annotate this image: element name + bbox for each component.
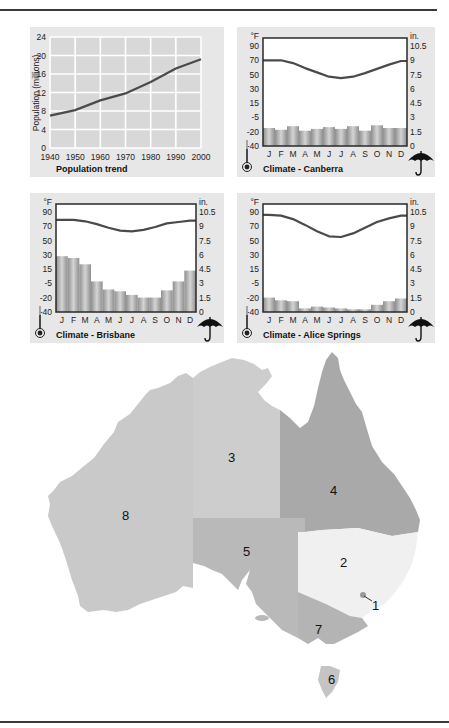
population-y-ticks: 04812162024 xyxy=(37,32,47,153)
rainfall-tick-label: 6 xyxy=(410,84,415,94)
month-label: F xyxy=(71,315,76,325)
temperature-tick-label: -40 xyxy=(247,141,260,151)
rainfall-bar xyxy=(383,128,395,146)
map-region-nt[interactable] xyxy=(193,358,280,518)
rainfall-unit-label: in. xyxy=(410,197,419,207)
rainfall-tick-label: 10.5 xyxy=(410,41,427,51)
climate-brisbane-chart: °Fin.9070503015-5-20-4010.597.564.531.50… xyxy=(30,193,224,343)
month-label: J xyxy=(60,315,64,325)
temperature-tick-label: 90 xyxy=(250,207,260,217)
month-label: A xyxy=(350,315,356,325)
rainfall-bar xyxy=(56,256,68,312)
climate-alice-springs-chart: °Fin.9070503015-5-20-4010.597.564.531.50… xyxy=(237,193,435,343)
rainfall-bar xyxy=(371,125,383,146)
temperature-tick-label: 50 xyxy=(250,70,260,80)
rainfall-bar xyxy=(184,271,196,312)
population-x-ticks: 1940195019601970198019902000 xyxy=(41,152,211,162)
month-label: D xyxy=(398,149,404,159)
map-label-nsw: 2 xyxy=(340,555,347,570)
temperature-unit-label: °F xyxy=(250,31,259,41)
month-label: J xyxy=(267,315,271,325)
temperature-tick-label: 15 xyxy=(43,264,53,274)
month-label: S xyxy=(152,315,158,325)
top-rule xyxy=(0,9,437,11)
rainfall-bar xyxy=(103,290,115,313)
rainfall-tick-label: 7.5 xyxy=(199,236,211,246)
rainfall-tick-label: 9 xyxy=(410,221,415,231)
rainfall-tick-label: 4.5 xyxy=(410,98,422,108)
temperature-tick-label: 90 xyxy=(43,207,53,217)
rainfall-tick-label: 9 xyxy=(199,221,204,231)
population-chart: Population (millions) 04812162024 194019… xyxy=(30,27,224,177)
rainfall-tick-label: 3 xyxy=(199,278,204,288)
month-label: J xyxy=(327,149,331,159)
map-label-nt: 3 xyxy=(228,450,235,465)
temperature-tick-label: -40 xyxy=(247,307,260,317)
climate-chart-title: Climate - Brisbane xyxy=(56,330,135,340)
rainfall-tick-label: 4.5 xyxy=(410,264,422,274)
rainfall-tick-label: 3 xyxy=(410,278,415,288)
month-label: N xyxy=(175,315,181,325)
rainfall-tick-label: 7.5 xyxy=(410,236,422,246)
rainfall-bar xyxy=(311,307,323,312)
month-label: M xyxy=(313,149,320,159)
month-label: A xyxy=(302,149,308,159)
rainfall-tick-label: 1.5 xyxy=(410,127,422,137)
temperature-tick-label: 30 xyxy=(250,84,260,94)
rainfall-bar xyxy=(161,290,173,312)
rainfall-bar xyxy=(371,305,383,312)
month-label: J xyxy=(327,315,331,325)
temperature-tick-label: -20 xyxy=(247,127,260,137)
rainfall-tick-label: 1.5 xyxy=(410,293,422,303)
rainfall-tick-label: 3 xyxy=(410,112,415,122)
temperature-tick-label: 90 xyxy=(250,41,260,51)
rainfall-bar xyxy=(323,127,335,146)
y-tick-label: 4 xyxy=(41,125,46,135)
month-label: A xyxy=(94,315,100,325)
climate-alice-springs-panel: °Fin.9070503015-5-20-4010.597.564.531.50… xyxy=(237,193,435,343)
map-island-kangaroo xyxy=(255,615,269,621)
temperature-tick-label: 70 xyxy=(250,55,260,65)
month-label: F xyxy=(278,149,283,159)
rainfall-bar xyxy=(347,126,359,146)
rainfall-tick-label: 4.5 xyxy=(199,264,211,274)
temperature-tick-label: 70 xyxy=(250,221,260,231)
temperature-tick-label: 50 xyxy=(250,236,260,246)
y-tick-label: 8 xyxy=(41,106,46,116)
rainfall-tick-label: 0 xyxy=(199,307,204,317)
map-label-act: 1 xyxy=(372,598,379,613)
rainfall-tick-label: 6 xyxy=(199,250,204,260)
temperature-tick-label: 15 xyxy=(250,264,260,274)
umbrella-icon xyxy=(197,317,223,341)
temperature-tick-label: -5 xyxy=(251,278,259,288)
map-region-qld[interactable] xyxy=(280,352,420,536)
month-label: D xyxy=(398,315,404,325)
x-tick-label: 1950 xyxy=(66,152,85,162)
y-tick-label: 20 xyxy=(37,51,47,61)
month-label: O xyxy=(164,315,171,325)
rainfall-bar xyxy=(263,128,275,146)
rainfall-bar xyxy=(395,128,407,146)
month-label: J xyxy=(118,315,122,325)
month-label: J xyxy=(130,315,134,325)
rainfall-bar xyxy=(287,126,299,146)
rainfall-tick-label: 7.5 xyxy=(410,70,422,80)
month-label: D xyxy=(187,315,193,325)
rainfall-tick-label: 9 xyxy=(410,55,415,65)
population-chart-title: Population trend xyxy=(56,164,128,174)
temperature-tick-label: -5 xyxy=(44,278,52,288)
climate-chart-title: Climate - Alice Springs xyxy=(263,330,361,340)
rainfall-tick-label: 10.5 xyxy=(410,207,427,217)
rainfall-bar xyxy=(383,301,395,312)
umbrella-icon xyxy=(408,317,434,341)
map-region-sa[interactable] xyxy=(193,518,305,638)
x-tick-label: 1980 xyxy=(141,152,160,162)
rainfall-bar xyxy=(311,129,323,146)
rainfall-unit-label: in. xyxy=(410,31,419,41)
month-label: N xyxy=(386,315,392,325)
rainfall-bar xyxy=(91,281,103,312)
temperature-tick-label: -5 xyxy=(251,112,259,122)
map-region-wa[interactable] xyxy=(48,373,193,612)
month-label: M xyxy=(105,315,112,325)
climate-canberra-panel: °Fin.9070503015-5-20-4010.597.564.531.50… xyxy=(237,27,435,177)
